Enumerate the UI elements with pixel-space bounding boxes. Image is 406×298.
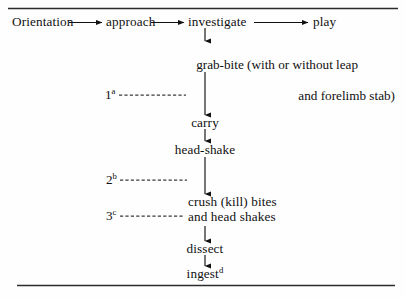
node-approach: approach — [106, 14, 155, 29]
node-head-shake: head-shake — [175, 142, 236, 157]
stage-marker-2: 2b — [106, 173, 117, 187]
node-crush-bites-line2: and head shakes — [188, 209, 276, 224]
stage-marker-3: 3c — [106, 209, 116, 223]
behaviour-sequence-figure: Orientation approach investigate play gr… — [0, 0, 406, 298]
stage-marker-1-superscript: a — [112, 86, 116, 96]
stage-marker-3-number: 3 — [106, 208, 113, 223]
stage-marker-2-number: 2 — [106, 172, 113, 187]
stage-marker-2-superscript: b — [113, 171, 117, 181]
node-grab-bite-line1: grab-bite (with or without leap — [196, 57, 358, 72]
stage-marker-1: 1a — [105, 88, 115, 102]
node-orientation: Orientation — [12, 14, 74, 29]
node-ingest-superscript: d — [219, 265, 223, 275]
node-crush-bites-line1: crush (kill) bites — [188, 194, 277, 209]
node-carry: carry — [191, 115, 219, 130]
node-investigate: investigate — [188, 14, 247, 29]
node-ingest: ingestd — [187, 266, 224, 281]
node-play: play — [313, 14, 336, 29]
stage-marker-3-superscript: c — [113, 207, 117, 217]
stage-marker-1-number: 1 — [105, 87, 112, 102]
node-ingest-label: ingest — [187, 266, 219, 281]
node-grab-bite-line2: and forelimb stab) — [183, 88, 395, 104]
node-dissect: dissect — [187, 241, 224, 256]
